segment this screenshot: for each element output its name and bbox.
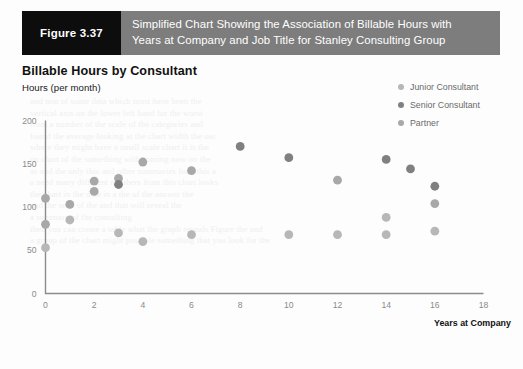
- legend-marker-icon: [398, 102, 404, 108]
- y-tick-label: 200: [22, 116, 37, 126]
- data-point-junior-consultant: [284, 230, 293, 239]
- figure-caption: Simplified Chart Showing the Association…: [121, 11, 500, 55]
- y-tick-label: 0: [32, 289, 37, 299]
- data-point-partner: [41, 220, 50, 229]
- data-point-partner: [41, 194, 50, 203]
- legend-marker-icon: [398, 84, 404, 90]
- x-tick-label: 6: [189, 300, 194, 310]
- x-tick-label: 4: [140, 300, 145, 310]
- figure-number-tag: Figure 3.37: [22, 11, 121, 55]
- data-point-junior-consultant: [114, 229, 123, 238]
- data-point-partner: [114, 174, 123, 183]
- y-axis-title: Hours (per month): [22, 82, 101, 93]
- legend-item-label: Senior Consultant: [410, 100, 480, 110]
- data-point-senior-consultant: [284, 153, 293, 162]
- data-point-senior-consultant: [236, 142, 245, 151]
- data-point-junior-consultant: [187, 230, 196, 239]
- figure-banner: Figure 3.37 Simplified Chart Showing the…: [22, 11, 500, 55]
- data-point-partner: [65, 200, 74, 209]
- data-point-junior-consultant: [430, 227, 439, 236]
- x-tick-label: 10: [284, 300, 294, 310]
- x-tick-label: 0: [43, 300, 48, 310]
- data-point-partner: [187, 166, 196, 175]
- x-axis-title: Years at Company: [434, 318, 511, 328]
- y-tick-label: 50: [27, 245, 37, 255]
- data-point-partner: [333, 176, 342, 185]
- figure-page: and non of some data which must have bee…: [0, 0, 523, 369]
- data-point-junior-consultant: [382, 213, 391, 222]
- data-point-junior-consultant: [41, 243, 50, 252]
- x-tick-label: 16: [430, 300, 440, 310]
- x-tick-label: 18: [479, 300, 489, 310]
- y-tick-label: 100: [22, 202, 37, 212]
- legend-item-junior-consultant[interactable]: Junior Consultant: [398, 82, 480, 92]
- figure-caption-line-1: Simplified Chart Showing the Association…: [132, 17, 492, 33]
- legend-item-label: Junior Consultant: [410, 82, 478, 92]
- data-point-partner: [430, 199, 439, 208]
- x-tick-label: 8: [238, 300, 243, 310]
- data-point-senior-consultant: [382, 155, 391, 164]
- chart-axes: [46, 121, 484, 294]
- background-bleed-text: and non of some data which must have bee…: [30, 96, 509, 333]
- legend-item-senior-consultant[interactable]: Senior Consultant: [398, 100, 480, 110]
- figure-caption-line-2: Years at Company and Job Title for Stanl…: [132, 33, 492, 49]
- data-point-senior-consultant: [430, 182, 439, 191]
- x-tick-label: 12: [333, 300, 343, 310]
- legend-item-label: Partner: [410, 118, 439, 128]
- data-point-partner: [138, 158, 147, 167]
- data-point-junior-consultant: [382, 230, 391, 239]
- figure-number-label: Figure 3.37: [40, 27, 103, 39]
- data-point-junior-consultant: [138, 237, 147, 246]
- chart-title: Billable Hours by Consultant: [22, 64, 197, 78]
- scatter-plot: 050100150200024681012141618: [0, 0, 523, 369]
- y-tick-label: 150: [22, 159, 37, 169]
- legend-item-partner[interactable]: Partner: [398, 118, 480, 128]
- data-point-partner: [90, 177, 99, 186]
- chart-legend: Junior ConsultantSenior ConsultantPartne…: [398, 82, 480, 128]
- data-point-senior-consultant: [114, 180, 123, 189]
- x-tick-label: 2: [92, 300, 97, 310]
- x-tick-label: 14: [381, 300, 391, 310]
- legend-marker-icon: [398, 120, 404, 126]
- data-point-partner: [90, 187, 99, 196]
- data-point-junior-consultant: [65, 216, 74, 225]
- data-point-junior-consultant: [333, 230, 342, 239]
- data-point-senior-consultant: [406, 165, 415, 174]
